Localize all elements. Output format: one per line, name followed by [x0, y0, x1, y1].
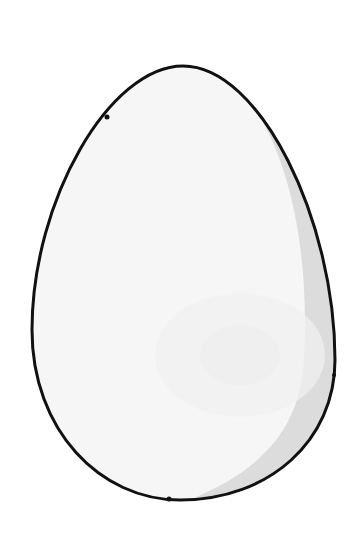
egg	[32, 66, 340, 520]
egg-illustration	[0, 0, 361, 545]
